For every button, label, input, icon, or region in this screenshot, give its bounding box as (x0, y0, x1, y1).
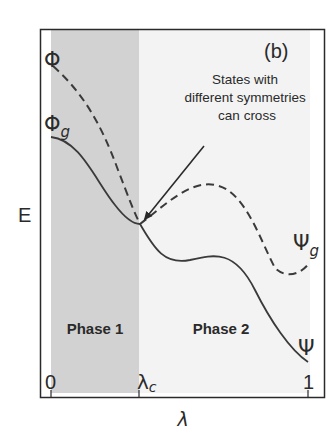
x-tick-label-0: 0 (45, 371, 56, 393)
panel-label: (b) (264, 40, 288, 62)
phase-2-label: Phase 2 (193, 320, 250, 337)
phase-1-region (51, 30, 139, 393)
phase-1-label: Phase 1 (67, 320, 124, 337)
y-axis-label: E (18, 204, 31, 226)
x-tick-label-1: 1 (303, 371, 314, 393)
phi-label: Φ (44, 48, 61, 72)
energy-level-diagram: (b) States with different symmetries can… (0, 0, 333, 446)
psi-label: Ψ (298, 336, 315, 360)
x-axis-label: λ (176, 408, 188, 430)
